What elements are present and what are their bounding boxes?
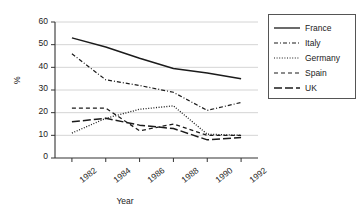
series-line-italy	[72, 54, 241, 111]
legend-label-germany: Germany	[305, 53, 340, 63]
legend-swatch-italy	[274, 38, 300, 48]
series-line-germany	[72, 106, 241, 135]
legend-label-spain: Spain	[305, 68, 327, 78]
legend-item-spain: Spain	[274, 65, 350, 80]
gridlines	[55, 22, 258, 135]
legend-item-italy: Italy	[274, 35, 350, 50]
series-line-france	[72, 38, 241, 79]
legend-swatch-uk	[274, 83, 300, 93]
line-chart: % 60 50 40 30 20 10 0 1982 1984 1986 198…	[0, 0, 362, 218]
legend: France Italy Germany Spain UK	[268, 14, 356, 99]
series-line-spain	[72, 108, 241, 135]
legend-label-uk: UK	[305, 83, 317, 93]
series-line-uk	[72, 118, 241, 140]
legend-item-uk: UK	[274, 80, 350, 95]
axis-ticks	[51, 22, 241, 162]
legend-label-france: France	[305, 23, 331, 33]
series-lines	[72, 38, 241, 140]
legend-item-france: France	[274, 20, 350, 35]
legend-item-germany: Germany	[274, 50, 350, 65]
legend-label-italy: Italy	[305, 38, 321, 48]
legend-swatch-spain	[274, 68, 300, 78]
legend-swatch-germany	[274, 53, 300, 63]
legend-swatch-france	[274, 23, 300, 33]
